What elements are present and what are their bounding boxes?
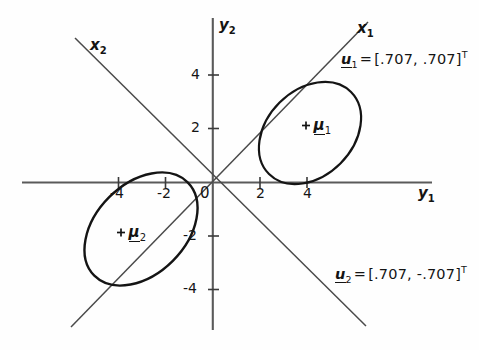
u2-value: [.707, -.707] [368, 266, 461, 282]
tick-label-x-pos4: 4 [303, 186, 312, 200]
axis-label-x1: x1 [357, 21, 374, 39]
mu1-subscript: 1 [325, 125, 331, 136]
tick-label-y-pos2: 2 [191, 120, 200, 134]
mu1-symbol: μ [314, 116, 325, 135]
figure-canvas: y2 y1 x1 x2 0 -4 -2 2 4 4 2 -2 -4 +μ1 +μ… [0, 0, 479, 350]
u2-transpose: T [461, 264, 467, 275]
mean-label-mu1: +μ1 [301, 118, 331, 136]
mu2-subscript: 2 [140, 232, 146, 243]
u1-transpose: T [462, 49, 468, 60]
tick-label-x-pos2: 2 [256, 186, 265, 200]
u2-symbol: u [335, 266, 346, 283]
x1-axis-line [71, 22, 368, 327]
u1-equals: = [360, 51, 372, 67]
mu2-symbol: μ [129, 223, 140, 242]
tick-label-x-neg4: -4 [110, 186, 124, 200]
tick-label-y-neg4: -4 [183, 281, 197, 295]
u2-equals: = [354, 266, 366, 282]
tick-label-y-pos4: 4 [191, 67, 200, 81]
axis-label-x2: x2 [90, 38, 107, 56]
u2-equation: u2=[.707, -.707]T [335, 265, 467, 284]
u1-value: [.707, .707] [374, 51, 462, 67]
origin-label: 0 [200, 186, 210, 201]
u2-subscript: 2 [346, 274, 352, 285]
mean-label-mu2: +μ2 [116, 225, 146, 243]
tick-label-x-neg2: -2 [157, 186, 171, 200]
u1-subscript: 1 [352, 59, 358, 70]
axis-label-y1: y1 [418, 186, 435, 204]
u1-symbol: u [341, 51, 352, 68]
tick-label-y-neg2: -2 [183, 228, 197, 242]
axis-label-y2: y2 [219, 18, 236, 36]
u1-equation: u1=[.707, .707]T [341, 50, 468, 69]
